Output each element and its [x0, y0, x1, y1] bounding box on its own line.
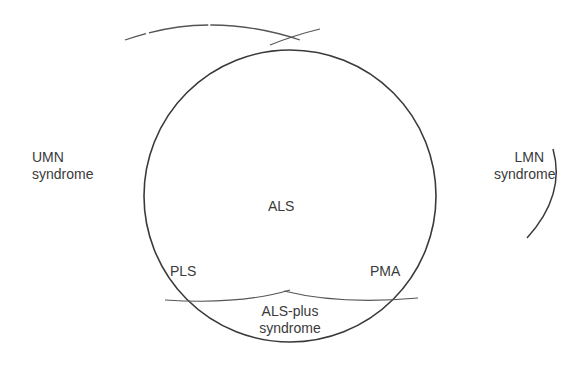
lmn-syndrome-label: LMN syndrome — [494, 149, 544, 183]
als-plus-arc-right — [284, 291, 418, 300]
als-circle — [144, 50, 436, 342]
pls-label: PLS — [170, 263, 196, 280]
pma-label: PMA — [370, 263, 400, 280]
lmn-arc-top — [270, 29, 320, 45]
lmn-label-line2: syndrome — [494, 166, 544, 183]
umn-arc — [125, 25, 300, 40]
lmn-label-line1: LMN — [494, 149, 544, 166]
umn-label-line1: UMN — [32, 149, 93, 166]
umn-syndrome-label: UMN syndrome — [32, 149, 93, 183]
als-plus-label-line1: ALS-plus — [245, 303, 335, 320]
als-plus-syndrome-label: ALS-plus syndrome — [245, 303, 335, 337]
als-plus-label-line2: syndrome — [245, 320, 335, 337]
als-label: ALS — [268, 198, 294, 215]
umn-label-line2: syndrome — [32, 166, 93, 183]
